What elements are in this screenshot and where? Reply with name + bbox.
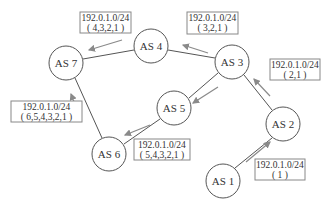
annotation-as4: 192.0.1.0/24 ( 4,3,2,1 ) (80, 12, 131, 34)
arrow-as2-to-as3 (254, 79, 270, 96)
svg-text:192.0.1.0/24: 192.0.1.0/24 (23, 102, 71, 112)
svg-text:( 6,5,4,3,2,1 ): ( 6,5,4,3,2,1 ) (21, 112, 72, 123)
annotation-as3: 192.0.1.0/24 ( 3,2,1 ) (187, 12, 238, 34)
annotation-as6: 192.0.1.0/24 ( 6,5,4,3,2,1 ) (11, 101, 82, 123)
svg-text:AS 1: AS 1 (212, 175, 234, 187)
bgp-path-diagram: AS 7 AS 4 AS 3 AS 5 AS 6 AS 2 AS 1 (0, 0, 327, 202)
svg-text:192.0.1.0/24: 192.0.1.0/24 (189, 13, 237, 23)
svg-text:AS 7: AS 7 (55, 57, 78, 69)
svg-text:( 1 ): ( 1 ) (272, 170, 288, 181)
svg-text:AS 2: AS 2 (272, 118, 294, 130)
svg-text:192.0.1.0/24: 192.0.1.0/24 (256, 160, 304, 170)
annotation-as5: 192.0.1.0/24 ( 5,4,3,2,1 ) (134, 139, 190, 161)
node-as1: AS 1 (206, 164, 240, 198)
annotation-as2: 192.0.1.0/24 ( 2,1 ) (270, 59, 320, 81)
node-as6: AS 6 (92, 137, 126, 171)
svg-text:192.0.1.0/24: 192.0.1.0/24 (138, 140, 186, 150)
annotation-as1: 192.0.1.0/24 ( 1 ) (255, 159, 305, 181)
node-as5: AS 5 (157, 91, 191, 125)
svg-text:( 3,2,1 ): ( 3,2,1 ) (197, 23, 227, 34)
edge-as3-as2 (244, 75, 272, 110)
node-as3: AS 3 (215, 45, 249, 79)
svg-text:192.0.1.0/24: 192.0.1.0/24 (271, 60, 319, 70)
edge-as7-as4 (83, 50, 134, 59)
node-as7: AS 7 (49, 46, 83, 80)
svg-text:( 5,4,3,2,1 ): ( 5,4,3,2,1 ) (140, 150, 184, 161)
svg-text:AS 6: AS 6 (98, 148, 121, 160)
svg-text:AS 5: AS 5 (163, 102, 186, 114)
node-as4: AS 4 (134, 29, 168, 63)
svg-text:AS 4: AS 4 (140, 40, 163, 52)
svg-text:192.0.1.0/24: 192.0.1.0/24 (82, 13, 130, 23)
svg-text:( 2,1 ): ( 2,1 ) (284, 70, 307, 81)
arrow-as4-to-as7 (89, 40, 122, 50)
edge-as3-as5 (189, 73, 218, 98)
arrow-as5-to-as6 (125, 125, 150, 135)
svg-text:AS 3: AS 3 (221, 56, 244, 68)
arrow-as3-to-as5 (193, 87, 218, 103)
edge-as4-as3 (168, 50, 215, 58)
svg-text:( 4,3,2,1 ): ( 4,3,2,1 ) (87, 23, 124, 34)
node-as2: AS 2 (266, 107, 300, 141)
arrow-as3-to-as4 (183, 45, 208, 53)
